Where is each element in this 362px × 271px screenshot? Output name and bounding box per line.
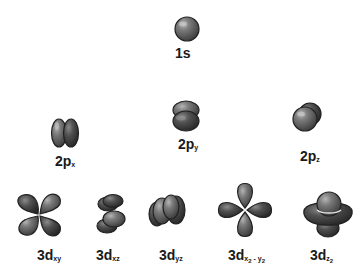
- label-3dx2y2-sub: x2 - y2: [244, 255, 265, 262]
- label-2py-main: 2p: [178, 136, 194, 152]
- orbital-2py-shape: [170, 98, 202, 134]
- label-2px-main: 2p: [55, 153, 71, 169]
- label-3dz2-sub: z2: [326, 255, 333, 262]
- label-3dx2y2: 3dx2 - y2: [228, 248, 265, 264]
- orbital-3dxz-shape: [93, 193, 129, 237]
- label-3dxy: 3dxy: [37, 248, 61, 262]
- label-2pz: 2pz: [300, 149, 320, 163]
- label-3dx2y2-main: 3d: [228, 247, 244, 263]
- label-1s-text: 1s: [175, 45, 191, 61]
- orbital-1s-shape: [173, 15, 201, 43]
- label-2pz-sub: z: [316, 156, 320, 163]
- orbital-3dx2y2-shape: [212, 177, 278, 243]
- label-2pz-main: 2p: [300, 148, 316, 164]
- label-3dyz-main: 3d: [159, 247, 175, 263]
- label-3dxz-main: 3d: [96, 247, 112, 263]
- label-2px: 2px: [55, 154, 75, 168]
- label-3dxy-sub: xy: [53, 255, 61, 262]
- label-3dx2y2-sub-y-exp: 2: [262, 258, 265, 264]
- label-2px-sub: x: [71, 161, 75, 168]
- label-3dz2: 3dz2: [310, 248, 333, 264]
- label-3dyz-sub: yz: [175, 255, 182, 262]
- label-1s: 1s: [175, 46, 191, 60]
- label-2py: 2py: [178, 137, 198, 151]
- orbital-2pz-shape: [291, 100, 325, 134]
- label-3dxy-main: 3d: [37, 247, 53, 263]
- label-3dxz-sub: xz: [112, 255, 119, 262]
- label-2py-sub: y: [194, 144, 198, 151]
- label-3dz2-sub-z-exp: 2: [330, 258, 333, 264]
- orbital-3dxy-shape: [12, 190, 66, 240]
- label-3dz2-main: 3d: [310, 247, 326, 263]
- label-3dyz: 3dyz: [159, 248, 183, 262]
- orbital-3dz2-shape: [300, 188, 356, 240]
- label-3dxz: 3dxz: [96, 248, 120, 262]
- orbital-2px-shape: [50, 116, 80, 150]
- orbital-3dyz-shape: [146, 190, 190, 230]
